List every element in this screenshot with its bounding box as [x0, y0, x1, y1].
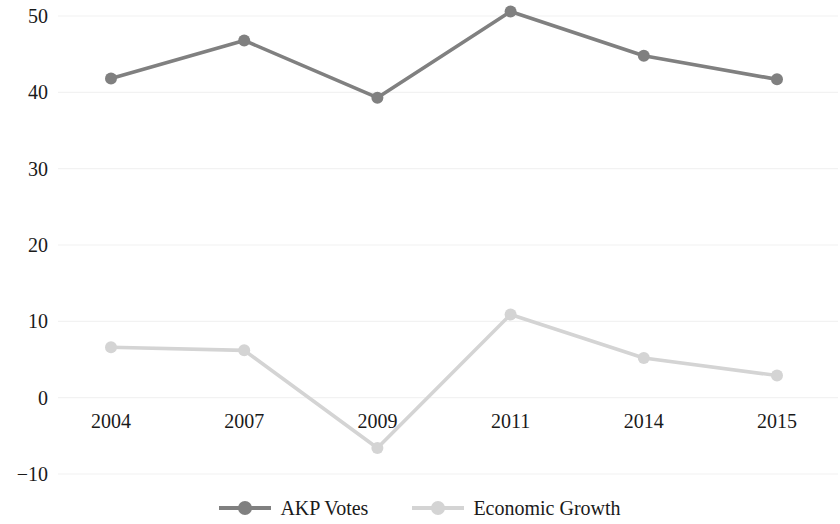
x-axis-tick-label: 2009: [337, 411, 417, 431]
legend-label-akp-votes: AKP Votes: [280, 498, 368, 518]
x-axis-tick-label: 2004: [71, 411, 151, 431]
data-point[interactable]: [105, 73, 117, 85]
line-chart: 50403020100−10 200420072009201120142015 …: [0, 0, 840, 524]
y-axis-tick-label: 30: [0, 159, 48, 179]
x-axis-tick-label: 2007: [204, 411, 284, 431]
legend-marker-economic-growth: [412, 501, 464, 515]
data-point[interactable]: [771, 370, 783, 382]
data-point[interactable]: [371, 442, 383, 454]
chart-legend: AKP Votes Economic Growth: [0, 492, 840, 524]
data-point[interactable]: [505, 5, 517, 17]
data-point[interactable]: [238, 344, 250, 356]
data-point[interactable]: [505, 308, 517, 320]
legend-marker-akp-votes: [219, 501, 271, 515]
data-point[interactable]: [638, 352, 650, 364]
data-point[interactable]: [638, 50, 650, 62]
series-layer: [105, 5, 783, 454]
x-axis-tick-label: 2011: [471, 411, 551, 431]
y-axis-tick-label: −10: [0, 464, 48, 484]
data-point[interactable]: [371, 92, 383, 104]
gridlines: [58, 16, 838, 474]
y-axis-tick-label: 0: [0, 388, 48, 408]
y-axis-tick-label: 10: [0, 311, 48, 331]
data-point[interactable]: [105, 341, 117, 353]
y-axis-tick-label: 20: [0, 235, 48, 255]
data-point[interactable]: [238, 34, 250, 46]
x-axis-tick-label: 2014: [604, 411, 684, 431]
legend-label-economic-growth: Economic Growth: [473, 498, 620, 518]
y-axis-tick-label: 50: [0, 6, 48, 26]
legend-item-economic-growth[interactable]: Economic Growth: [412, 498, 620, 518]
x-axis-tick-label: 2015: [737, 411, 817, 431]
y-axis-tick-label: 40: [0, 82, 48, 102]
chart-plot-area: [0, 0, 840, 524]
data-point[interactable]: [771, 73, 783, 85]
legend-item-akp-votes[interactable]: AKP Votes: [219, 498, 368, 518]
series-line-akp-votes: [111, 11, 777, 97]
